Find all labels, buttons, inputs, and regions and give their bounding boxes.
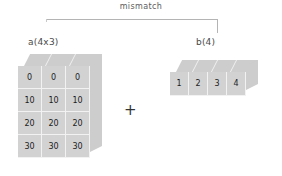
block-b-label: b(4) [196, 37, 215, 47]
block-a-side-face [90, 54, 102, 152]
matrix-cell: 0 [18, 66, 42, 89]
matrix-cell: 1 [170, 72, 189, 96]
block-a-label: a(4x3) [28, 37, 59, 47]
matrix-cell: 20 [66, 112, 90, 135]
mismatch-annotation-label: mismatch [96, 2, 186, 11]
mismatch-bracket-tick-right [217, 19, 218, 33]
matrix-cell: 20 [18, 112, 42, 135]
matrix-cell: 10 [66, 89, 90, 112]
mismatch-bracket-tick-left [46, 19, 47, 22]
matrix-cell: 10 [18, 89, 42, 112]
plus-operator: + [124, 103, 137, 118]
block-b-side-face [246, 60, 258, 90]
matrix-cell: 2 [189, 72, 208, 96]
matrix-cell: 4 [227, 72, 246, 96]
matrix-cell: 20 [42, 112, 66, 135]
diagram-canvas: mismatch a(4x3) b(4) 0001010102020203030… [0, 0, 282, 176]
matrix-cell: 30 [18, 135, 42, 158]
matrix-cell: 30 [66, 135, 90, 158]
matrix-cell: 3 [208, 72, 227, 96]
matrix-cell: 10 [42, 89, 66, 112]
matrix-cell: 30 [42, 135, 66, 158]
mismatch-bracket-line [46, 19, 218, 20]
block-b-cell-grid: 1234 [170, 72, 246, 96]
block-a-cell-grid: 000101010202020303030 [18, 66, 90, 158]
matrix-cell: 0 [66, 66, 90, 89]
matrix-cell: 0 [42, 66, 66, 89]
